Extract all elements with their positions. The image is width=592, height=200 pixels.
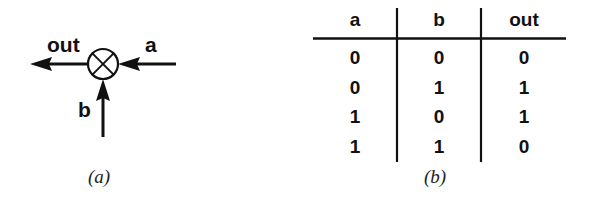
caption-b: (b) [424,166,446,188]
cell-b: 0 [409,106,469,128]
cell-a: 1 [325,136,385,158]
cell-out: 1 [494,77,554,99]
cell-a: 1 [325,106,385,128]
cell-out: 0 [494,136,554,158]
header-a: a [325,9,385,31]
cell-b: 0 [409,47,469,69]
cell-a: 0 [325,77,385,99]
cell-a: 0 [325,47,385,69]
header-b: b [409,9,469,31]
cell-b: 1 [409,136,469,158]
cell-out: 1 [494,106,554,128]
cell-out: 0 [494,47,554,69]
cell-b: 1 [409,77,469,99]
header-out: out [494,9,554,31]
